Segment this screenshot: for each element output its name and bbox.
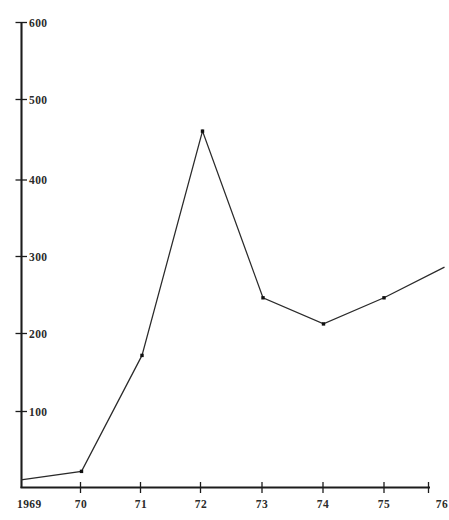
x-tick-label-71: 71 — [135, 498, 147, 510]
data-point-marker — [322, 322, 325, 325]
x-tick-label-1969: 1969 — [17, 498, 42, 510]
x-tick-label-73: 73 — [256, 498, 268, 510]
data-series-line — [21, 131, 445, 480]
data-point-markers — [80, 129, 386, 473]
data-point-marker — [80, 470, 83, 473]
y-tick-label-300: 300 — [29, 251, 47, 263]
data-point-marker — [261, 296, 264, 299]
y-tick-label-400: 400 — [29, 174, 47, 186]
x-tick-label-76: 76 — [436, 498, 448, 510]
x-tick-label-74: 74 — [317, 498, 329, 510]
x-tick-label-75: 75 — [378, 498, 390, 510]
line-chart-figure: 600 500 400 300 200 100 1969 70 71 72 73… — [0, 0, 449, 520]
x-tick-label-72: 72 — [195, 498, 207, 510]
x-tick-label-70: 70 — [75, 498, 87, 510]
data-point-marker — [382, 296, 385, 299]
data-point-marker — [140, 354, 143, 357]
chart-plot-area: 600 500 400 300 200 100 1969 70 71 72 73… — [0, 0, 449, 520]
y-tick-label-100: 100 — [29, 406, 47, 418]
y-axis-tick-labels: 600 500 400 300 200 100 — [29, 17, 47, 418]
x-axis-tick-labels: 1969 70 71 72 73 74 75 76 — [17, 498, 448, 510]
data-point-marker — [201, 129, 204, 132]
y-tick-label-600: 600 — [29, 17, 47, 29]
y-tick-label-500: 500 — [29, 94, 47, 106]
y-tick-label-200: 200 — [29, 328, 47, 340]
